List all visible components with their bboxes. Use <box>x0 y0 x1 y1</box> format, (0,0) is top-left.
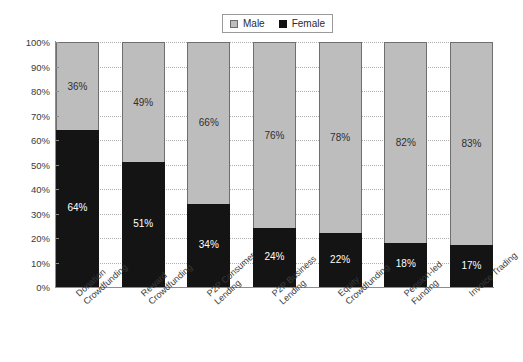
bar-segment-male[interactable]: 49% <box>122 42 165 162</box>
x-axis-category-labels: DonationCrowdfundingRewardCrowdfundingP2… <box>56 289 493 362</box>
bar-segment-male[interactable]: 83% <box>450 42 493 245</box>
stacked-bar-chart: Male Female 100%90%80%70%60%50%40%30%20%… <box>0 0 523 362</box>
y-axis-tick-mark <box>55 263 59 264</box>
bar-segment-male[interactable]: 78% <box>319 42 362 233</box>
y-axis-tick-mark <box>55 165 59 166</box>
bar-value-label-female: 34% <box>199 240 219 250</box>
bar-value-label-male: 83% <box>461 139 481 149</box>
bar-segment-male[interactable]: 36% <box>56 42 99 130</box>
bar-value-label-female: 18% <box>396 259 416 269</box>
y-axis-tick-60: 60% <box>6 135 50 146</box>
y-axis-tick-labels: 100%90%80%70%60%50%40%30%20%10%0% <box>0 42 50 287</box>
y-axis-tick-100: 100% <box>6 37 50 48</box>
bar-value-label-female: 22% <box>330 255 350 265</box>
bar-segment-male[interactable]: 82% <box>384 42 427 243</box>
bar-column[interactable]: 49%51% <box>122 42 165 287</box>
y-axis-tick-50: 50% <box>6 159 50 170</box>
x-axis-label-slot: RewardCrowdfunding <box>122 289 165 362</box>
y-axis-tick-mark <box>55 91 59 92</box>
y-axis-tick-mark <box>55 67 59 68</box>
bar-value-label-male: 78% <box>330 133 350 143</box>
bar-column[interactable]: 82%18% <box>384 42 427 287</box>
bar-column[interactable]: 83%17% <box>450 42 493 287</box>
y-axis-tick-40: 40% <box>6 184 50 195</box>
x-axis-label-slot: Invoice Trading <box>450 289 493 362</box>
bar-value-label-female: 24% <box>264 252 284 262</box>
bar-segment-male[interactable]: 76% <box>253 42 296 228</box>
y-axis-tick-90: 90% <box>6 61 50 72</box>
bar-column[interactable]: 76%24% <box>253 42 296 287</box>
legend-swatch-male-icon <box>230 20 238 28</box>
bar-column[interactable]: 66%34% <box>187 42 230 287</box>
legend-item-female: Female <box>279 19 325 29</box>
x-axis-label-slot: P2P ConsumerLending <box>187 289 230 362</box>
bar-column[interactable]: 78%22% <box>319 42 362 287</box>
y-axis-tick-mark <box>55 42 59 43</box>
bar-value-label-male: 36% <box>67 82 87 92</box>
x-axis-label-slot: P2P BusinessLending <box>253 289 296 362</box>
y-axis-tick-mark <box>55 214 59 215</box>
chart-legend: Male Female <box>222 14 333 33</box>
legend-label-female: Female <box>292 19 325 29</box>
bar-value-label-male: 66% <box>199 118 219 128</box>
bar-value-label-male: 82% <box>396 138 416 148</box>
y-axis-tick-mark <box>55 189 59 190</box>
bar-value-label-female: 64% <box>67 203 87 213</box>
bar-value-label-female: 51% <box>133 219 153 229</box>
x-axis-label-slot: EquityCrowdfunding <box>319 289 362 362</box>
plot-area: 36%64%49%51%66%34%76%24%78%22%82%18%83%1… <box>56 42 493 287</box>
y-axis-tick-mark <box>55 238 59 239</box>
x-axis-label-slot: Pension-ledFunding <box>384 289 427 362</box>
bar-group: 36%64%49%51%66%34%76%24%78%22%82%18%83%1… <box>56 42 493 287</box>
bar-segment-male[interactable]: 66% <box>187 42 230 204</box>
y-axis-tick-mark <box>55 116 59 117</box>
y-axis-tick-20: 20% <box>6 233 50 244</box>
bar-column[interactable]: 36%64% <box>56 42 99 287</box>
legend-label-male: Male <box>243 19 265 29</box>
legend-swatch-female-icon <box>279 20 287 28</box>
y-axis-tick-mark <box>55 287 59 288</box>
bar-value-label-male: 76% <box>264 131 284 141</box>
y-axis-tick-30: 30% <box>6 208 50 219</box>
legend-item-male: Male <box>230 19 265 29</box>
y-axis-tick-70: 70% <box>6 110 50 121</box>
y-axis-tick-10: 10% <box>6 257 50 268</box>
y-axis-tick-80: 80% <box>6 86 50 97</box>
bar-value-label-male: 49% <box>133 98 153 108</box>
x-axis-label-slot: DonationCrowdfunding <box>56 289 99 362</box>
y-axis-tick-mark <box>55 140 59 141</box>
bar-segment-female[interactable]: 64% <box>56 130 99 287</box>
y-axis-tick-0: 0% <box>6 282 50 293</box>
bar-value-label-female: 17% <box>461 261 481 271</box>
